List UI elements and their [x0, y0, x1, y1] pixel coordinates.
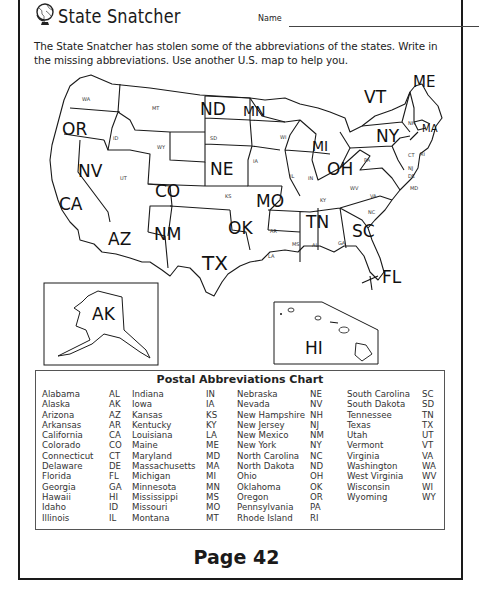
state-abbr: IA [206, 399, 214, 409]
alaska-inset [44, 283, 158, 365]
state-name: Nebraska [237, 389, 278, 399]
state-abbr: KS [206, 410, 217, 420]
state-name: New York [237, 440, 276, 450]
state-name: West Virginia [347, 471, 403, 481]
svg-text:TX: TX [201, 251, 228, 275]
state-name: Connecticut [42, 451, 93, 461]
chart-row: NebraskaNE [237, 389, 337, 399]
chart-row: MichiganMI [132, 471, 232, 481]
svg-text:VT: VT [364, 87, 387, 107]
state-abbr: NY [310, 440, 322, 450]
chart-row: AlabamaAL [42, 389, 142, 399]
chart-row: MassachusettsMA [132, 461, 232, 471]
chart-row: South DakotaSD [347, 399, 442, 409]
worksheet-header: State Snatcher Name [34, 2, 454, 32]
state-abbr: MD [206, 451, 220, 461]
svg-text:WI: WI [280, 134, 286, 140]
state-name: South Dakota [347, 399, 405, 409]
state-name: Wyoming [347, 492, 387, 502]
chart-row: DelawareDE [42, 461, 142, 471]
state-abbr: MS [206, 492, 219, 502]
chart-row: ArizonaAZ [42, 410, 142, 420]
state-name: Illinois [42, 513, 69, 523]
state-abbr: IL [109, 513, 116, 523]
state-abbr: FL [109, 471, 119, 481]
svg-text:AL: AL [312, 242, 318, 248]
chart-row: OhioOH [237, 471, 337, 481]
chart-row: IowaIA [132, 399, 232, 409]
chart-row: New HampshireNH [237, 410, 337, 420]
state-name: Delaware [42, 461, 83, 471]
state-abbr: NE [310, 389, 322, 399]
hawaii-inset [274, 302, 378, 364]
chart-row: NevadaNV [237, 399, 337, 409]
svg-text:NM: NM [154, 224, 181, 244]
svg-text:MI: MI [312, 138, 328, 154]
svg-text:DE: DE [408, 173, 415, 179]
svg-text:OR: OR [62, 119, 87, 139]
state-abbr: NM [310, 430, 324, 440]
state-abbr: TX [422, 420, 433, 430]
svg-text:AZ: AZ [108, 229, 131, 249]
state-name: Florida [42, 471, 71, 481]
svg-text:MN: MN [243, 103, 266, 119]
state-abbr: OK [310, 482, 322, 492]
state-name: North Carolina [237, 451, 299, 461]
state-abbr: PA [310, 502, 321, 512]
chart-row: MinnesotaMN [132, 482, 232, 492]
state-abbr: MN [206, 482, 220, 492]
state-abbr: DE [109, 461, 121, 471]
chart-row: South CarolinaSC [347, 389, 442, 399]
chart-row: ColoradoCO [42, 440, 142, 450]
state-name: Nevada [237, 399, 270, 409]
state-abbr: WI [422, 482, 433, 492]
state-abbr: RI [310, 513, 319, 523]
svg-text:NJ: NJ [408, 165, 413, 171]
svg-text:MT: MT [152, 105, 160, 111]
svg-text:KS: KS [225, 193, 231, 199]
state-abbr: AR [109, 420, 121, 430]
svg-text:CA: CA [59, 194, 83, 214]
state-name: Kansas [132, 410, 162, 420]
worksheet-title: State Snatcher [58, 5, 181, 27]
state-name: South Carolina [347, 389, 410, 399]
state-name: Georgia [42, 482, 76, 492]
svg-text:IN: IN [308, 175, 313, 181]
state-abbr: NC [310, 451, 322, 461]
state-abbr: ND [310, 461, 323, 471]
state-name: Michigan [132, 471, 171, 481]
state-abbr: MA [206, 461, 219, 471]
chart-row: West VirginiaWV [347, 471, 442, 481]
chart-row: WashingtonWA [347, 461, 442, 471]
state-abbr: OH [310, 471, 323, 481]
alaska-label: AK [92, 304, 116, 324]
state-name: Colorado [42, 440, 80, 450]
state-abbr: WV [422, 471, 436, 481]
state-name: Maine [132, 440, 158, 450]
svg-text:MA: MA [422, 123, 438, 134]
state-name: Mississippi [132, 492, 178, 502]
state-abbr: ME [206, 440, 219, 450]
state-name: Massachusetts [132, 461, 196, 471]
state-name: Arkansas [42, 420, 81, 430]
chart-row: MissouriMO [132, 502, 232, 512]
chart-row: IndianaIN [132, 389, 232, 399]
svg-text:ME: ME [413, 73, 435, 91]
state-abbr: NJ [310, 420, 319, 430]
svg-text:FL: FL [382, 267, 402, 287]
chart-row: GeorgiaGA [42, 482, 142, 492]
chart-row: North CarolinaNC [237, 451, 337, 461]
state-name: Oregon [237, 492, 269, 502]
svg-text:LA: LA [268, 253, 275, 259]
state-abbr: SD [422, 399, 434, 409]
chart-row: North DakotaND [237, 461, 337, 471]
svg-text:MD: MD [410, 185, 418, 191]
state-name: Wisconsin [347, 482, 390, 492]
svg-text:VA: VA [370, 193, 377, 199]
chart-row: AlaskaAK [42, 399, 142, 409]
name-field[interactable] [289, 26, 479, 27]
state-name: Missouri [132, 502, 167, 512]
chart-row: Rhode IslandRI [237, 513, 337, 523]
chart-row: TennesseeTN [347, 410, 442, 420]
state-abbr: UT [422, 430, 434, 440]
